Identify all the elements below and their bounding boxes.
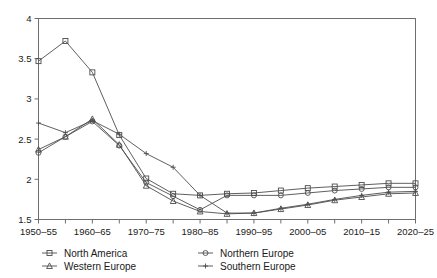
legend-label: Western Europe xyxy=(64,261,137,272)
y-tick-label: 3 xyxy=(26,93,31,104)
legend-label: Northern Europe xyxy=(220,248,294,259)
x-tick-label: 2020–25 xyxy=(397,226,434,237)
fertility-rate-line-chart: 1.522.533.541950–551960–651970–751980–85… xyxy=(0,0,437,278)
x-tick-label: 1970–75 xyxy=(128,226,165,237)
legend-label: North America xyxy=(64,248,128,259)
x-tick-label: 1990–95 xyxy=(235,226,272,237)
x-tick-label: 1980–85 xyxy=(182,226,219,237)
y-tick-label: 1.5 xyxy=(18,214,31,225)
legend-item-northern-europe[interactable]: Northern Europe xyxy=(198,248,294,259)
y-axis: 1.522.533.54 xyxy=(18,13,38,225)
x-tick-label: 2000–05 xyxy=(289,226,326,237)
x-tick-label: 1960–65 xyxy=(74,226,111,237)
series-northern-europe xyxy=(36,119,418,212)
y-tick-label: 2.5 xyxy=(18,134,31,145)
series-southern-europe xyxy=(36,118,418,215)
legend-label: Southern Europe xyxy=(220,261,296,272)
x-tick-label: 1950–55 xyxy=(20,226,57,237)
legend-item-southern-europe[interactable]: Southern Europe xyxy=(198,261,296,272)
chart-figure: 1.522.533.541950–551960–651970–751980–85… xyxy=(0,0,437,278)
x-axis: 1950–551960–651970–751980–851990–952000–… xyxy=(20,220,434,237)
series-line xyxy=(39,41,416,195)
y-tick-label: 4 xyxy=(26,13,31,24)
series-western-europe xyxy=(36,116,419,216)
y-tick-label: 2 xyxy=(26,174,31,185)
legend-item-western-europe[interactable]: Western Europe xyxy=(42,261,137,272)
y-tick-label: 3.5 xyxy=(18,53,31,64)
legend-item-north-america[interactable]: North America xyxy=(42,248,128,259)
x-tick-label: 2010–15 xyxy=(343,226,380,237)
chart-legend: North AmericaNorthern EuropeWestern Euro… xyxy=(42,248,296,272)
